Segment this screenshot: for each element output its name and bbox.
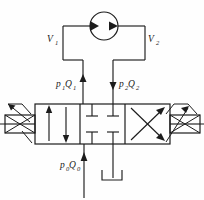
pump-arrow-left-icon (90, 21, 99, 31)
label-q1-base: Q (65, 79, 72, 89)
valve-position-closed-center (86, 104, 119, 144)
valve-arrow-up-icon (46, 105, 52, 113)
actuator-right-arrow-icon (181, 106, 189, 113)
hydraulic-circuit-diagram: V 1 V 2 p 1 Q 1 p 2 Q 2 p 0 Q 0 (0, 0, 204, 200)
label-v2: V 2 (148, 34, 160, 46)
label-v2-base: V (148, 34, 155, 44)
solenoid-actuator-right (166, 104, 204, 142)
label-v1-sub: 1 (55, 39, 58, 46)
label-p1-base: p (55, 79, 61, 89)
port-a-line (80, 60, 87, 104)
label-p2-base: p (118, 79, 124, 89)
label-q2-sub: 2 (136, 84, 140, 91)
port-b-flow-arrow-icon (110, 82, 117, 90)
valve-position-parallel (46, 105, 69, 143)
pump-motor-symbol (90, 12, 118, 40)
valve-position-crossed (131, 107, 165, 141)
pressure-supply-line (81, 144, 88, 198)
label-p0q0: p 0 Q 0 (59, 160, 81, 172)
label-q1-sub: 1 (73, 84, 76, 91)
actuator-right-top-slope-r (188, 104, 197, 114)
tank-symbol (102, 170, 122, 180)
tank-return-line (102, 144, 122, 180)
pump-arrow-right-icon (109, 22, 118, 31)
actuator-right-lever (166, 108, 188, 142)
circuit-svg: V 1 V 2 p 1 Q 1 p 2 Q 2 p 0 Q 0 (0, 0, 204, 200)
label-p1q1: p 1 Q 1 (55, 79, 76, 91)
label-p2q2: p 2 Q 2 (118, 79, 140, 91)
label-q0-sub: 0 (77, 165, 81, 172)
label-q0-base: Q (69, 160, 76, 170)
valve-body (35, 104, 170, 144)
label-p0-base: p (59, 160, 65, 170)
label-v2-sub: 2 (156, 39, 160, 46)
valve-arrow-down-icon (63, 135, 69, 143)
label-q2-base: Q (128, 79, 135, 89)
valve-body-outline (35, 104, 170, 144)
supply-flow-arrow-icon (81, 152, 88, 161)
right-branch-line (113, 26, 145, 60)
actuator-left-top-slope (22, 104, 31, 114)
port-b-line (110, 60, 117, 104)
port-a-flow-arrow-icon (80, 74, 87, 82)
label-v1-base: V (47, 34, 54, 44)
label-v1: V 1 (47, 34, 58, 46)
left-branch-line (63, 26, 90, 60)
